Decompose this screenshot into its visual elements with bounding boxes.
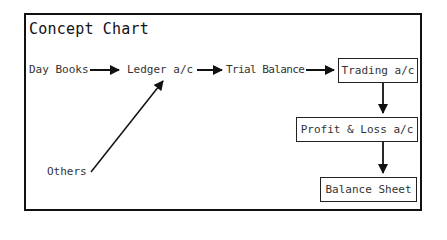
node-balance-sheet: Balance Sheet	[320, 177, 417, 202]
node-others: Others	[47, 166, 87, 178]
node-profit-loss: Profit & Loss a/c	[296, 117, 418, 142]
node-ledger: Ledger a/c	[127, 64, 193, 76]
node-trial-balance: Trial Balance	[226, 64, 304, 76]
node-trading: Trading a/c	[338, 58, 418, 83]
chart-title: Concept Chart	[29, 20, 149, 38]
node-day-books: Day Books	[29, 64, 89, 76]
